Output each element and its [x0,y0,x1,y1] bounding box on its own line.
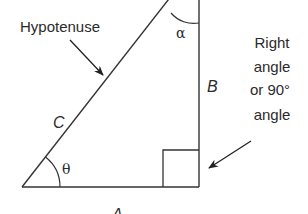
right-angle-marker [163,150,199,187]
right-angle-arrow [209,141,251,168]
right-angle-label-line3: or 90° [250,81,290,98]
side-a-label: A [111,206,123,214]
hypotenuse-arrow [70,40,103,75]
right-triangle-diagram: Hypotenuse C B A θ α Right angle or 90° … [0,0,308,214]
alpha-label: α [176,25,186,41]
side-c-label: C [53,114,65,131]
right-angle-label-line1: Right [254,34,290,51]
side-b-label: B [207,78,218,95]
hypotenuse-label: Hypotenuse [20,18,100,35]
right-angle-label-line4: angle [254,106,291,123]
alpha-angle-arc [171,13,199,23]
theta-angle-arc [46,157,61,187]
theta-label: θ [62,161,70,177]
right-angle-label-line2: angle [254,58,291,75]
